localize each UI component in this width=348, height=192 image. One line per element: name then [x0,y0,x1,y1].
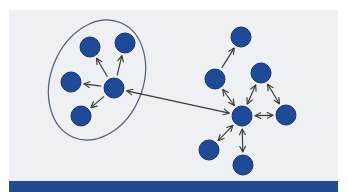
node-circle-L4 [104,78,124,98]
edge-arrow-R4-R6 [218,125,233,140]
node-circle-L5 [71,106,91,126]
node-circle-R6 [199,140,219,160]
diagram-nodes [61,27,296,175]
edge-arrow-L4-L1 [97,58,108,77]
node-circle-R1 [231,27,251,47]
node-circle-R5 [276,105,296,125]
edge-arrow-R4-R2 [223,90,235,106]
edge-arrow-R3-R5 [268,84,280,104]
cluster-ellipse-left-cluster [31,5,163,154]
node-circle-R2 [205,69,225,89]
cluster-groups [31,5,163,154]
edge-arrow-L4-R4 [127,91,230,113]
edge-arrow-L4-L3 [84,84,101,86]
node-circle-L2 [115,33,135,53]
node-circle-R3 [251,63,271,83]
edge-arrow-R4-R3 [247,85,255,104]
edge-arrow-R2-R1 [222,48,234,68]
network-diagram [0,0,348,192]
node-circle-R7 [233,155,253,175]
edge-arrow-L4-L5 [91,96,104,107]
node-circle-L3 [61,72,81,92]
diagram-edges [84,48,280,152]
edge-arrow-L4-L2 [117,56,122,76]
node-circle-L1 [80,37,100,57]
node-circle-R4 [232,106,252,126]
